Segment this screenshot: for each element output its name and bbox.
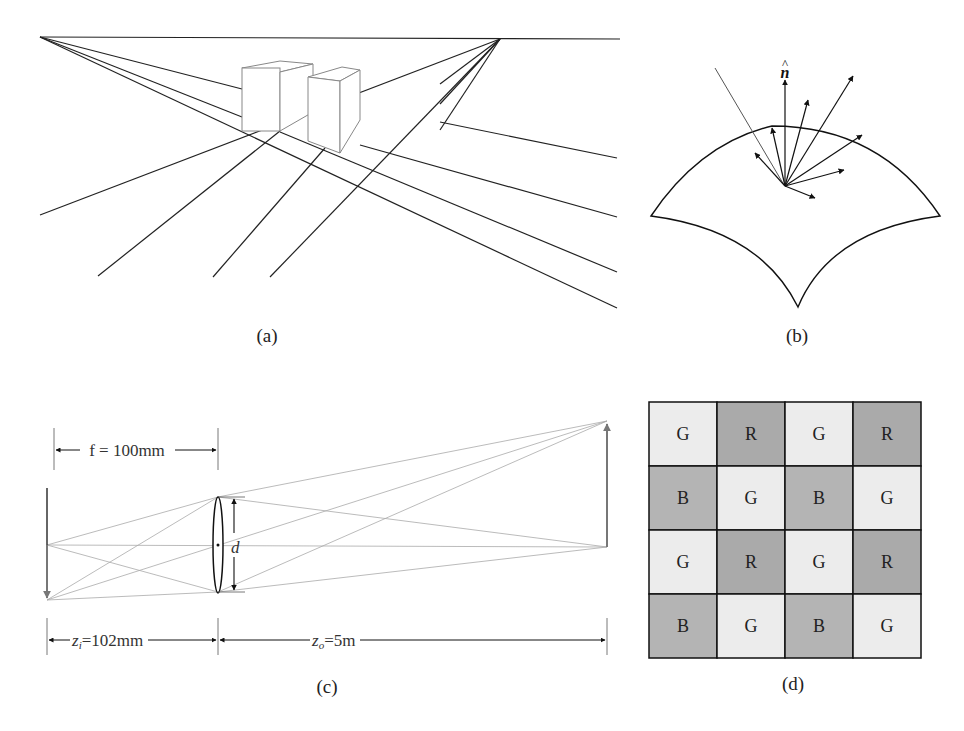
aperture-label: d xyxy=(231,538,240,557)
bayer-cell-label: B xyxy=(813,616,825,636)
bayer-cell-label: R xyxy=(881,552,893,572)
caption-b: (b) xyxy=(786,325,808,347)
bayer-cell-label: G xyxy=(677,552,690,572)
bayer-cell-label: B xyxy=(813,488,825,508)
caption-c: (c) xyxy=(316,676,337,698)
figure-canvas: (a) ^ n (b) xyxy=(0,0,964,731)
object-distance-label: zo=5m xyxy=(311,631,355,651)
panel-d-bayer-grid: GRGRBGBGGRGRBGBG xyxy=(649,402,921,658)
bayer-cell-label: G xyxy=(881,488,894,508)
bayer-cell-label: R xyxy=(745,424,757,444)
horizon-line xyxy=(40,37,620,39)
panel-b-brdf: ^ n xyxy=(651,56,940,307)
normal-label: n xyxy=(781,64,790,81)
bayer-cell-label: R xyxy=(745,552,757,572)
caption-a: (a) xyxy=(256,325,277,347)
bayer-cell-label: B xyxy=(677,616,689,636)
box-right xyxy=(308,67,360,153)
caption-d: (d) xyxy=(782,673,804,695)
focal-length-label: f = 100mm xyxy=(89,441,165,460)
surface-patch xyxy=(651,126,940,307)
bayer-cell-label: B xyxy=(677,488,689,508)
image-distance-label: zi=102mm xyxy=(71,631,143,651)
panel-c-lens: d f = 100mm zi=102mm zo=5m xyxy=(47,421,607,655)
box-left xyxy=(242,61,313,131)
bayer-cell-label: R xyxy=(881,424,893,444)
bayer-cell-label: G xyxy=(677,424,690,444)
bayer-cell-label: G xyxy=(813,424,826,444)
bayer-cell-label: G xyxy=(881,616,894,636)
bayer-cell-label: G xyxy=(745,488,758,508)
bayer-cell-label: G xyxy=(813,552,826,572)
bayer-cell-label: G xyxy=(745,616,758,636)
